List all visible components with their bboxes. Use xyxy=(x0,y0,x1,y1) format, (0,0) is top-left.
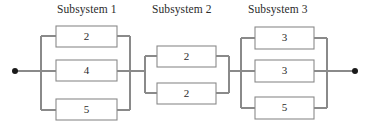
subsystem-3-block-1-label: 3 xyxy=(282,31,288,43)
subsystem-3-block-2-label: 3 xyxy=(282,64,288,76)
subsystem-3-block-3-label: 5 xyxy=(282,101,288,113)
subsystem-1-block-1-label: 2 xyxy=(84,30,90,42)
subsystem-2-block-2-label: 2 xyxy=(184,87,190,99)
output-node-dot xyxy=(352,68,358,74)
subsystem-2-block-1-label: 2 xyxy=(184,50,190,62)
subsystem-1-block-2-label: 4 xyxy=(84,64,90,76)
subsystem-1-block-3-label: 5 xyxy=(84,103,90,115)
reliability-block-diagram: Subsystem 1 Subsystem 2 Subsystem 3 2 4 … xyxy=(0,0,370,134)
diagram-canvas: 2 4 5 2 2 3 3 5 xyxy=(0,0,370,134)
input-node-dot xyxy=(12,68,18,74)
